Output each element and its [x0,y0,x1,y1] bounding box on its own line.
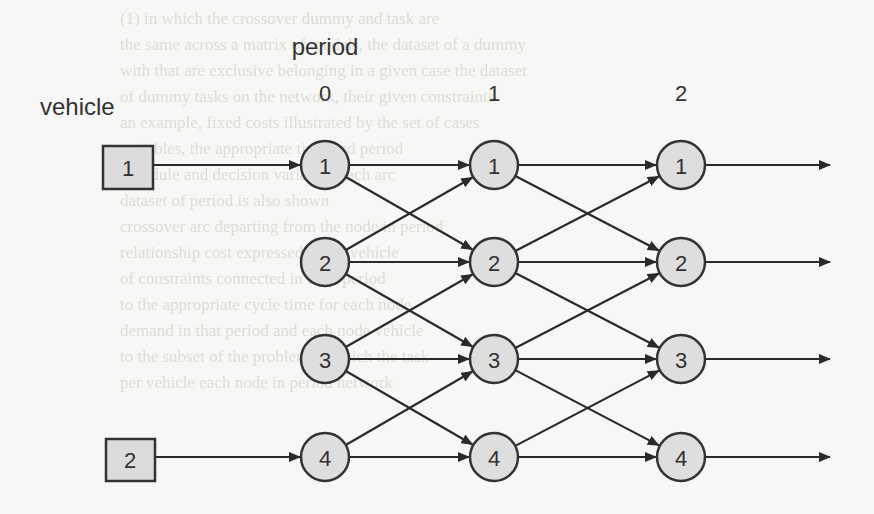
node-p1-4: 4 [470,433,518,481]
node-label: 1 [488,154,500,179]
node-label: 4 [675,446,687,471]
node-label: 2 [675,251,687,276]
vehicle-axis-title: vehicle [40,93,115,120]
node-label: 2 [319,251,331,276]
node-p0-1: 1 [301,141,349,189]
vehicle-box-2-label: 2 [124,448,136,473]
node-p1-1: 1 [470,141,518,189]
node-label: 4 [319,446,331,471]
node-p2-2: 2 [657,238,705,286]
vehicle-box-1-label: 1 [122,156,134,181]
period-label-1: 1 [488,81,500,106]
node-label: 3 [319,348,331,373]
node-p1-3: 3 [470,335,518,383]
node-label: 4 [488,446,500,471]
node-label: 3 [675,348,687,373]
node-p0-4: 4 [301,433,349,481]
vehicle-period-network-diagram: period vehicle 0 1 2 1 2 1 2 3 4 1 2 3 4… [0,0,874,514]
node-label: 1 [675,154,687,179]
vehicle-box-2: 2 [106,439,155,481]
edge-layer [153,165,830,457]
node-p2-3: 3 [657,335,705,383]
node-p1-2: 2 [470,238,518,286]
node-label: 1 [319,154,331,179]
node-p0-3: 3 [301,335,349,383]
node-p0-2: 2 [301,238,349,286]
node-p2-1: 1 [657,141,705,189]
node-label: 2 [488,251,500,276]
node-p2-4: 4 [657,433,705,481]
node-label: 3 [488,348,500,373]
period-axis-title: period [292,33,359,60]
period-label-0: 0 [319,81,331,106]
vehicle-box-1: 1 [103,146,153,189]
period-label-2: 2 [675,81,687,106]
